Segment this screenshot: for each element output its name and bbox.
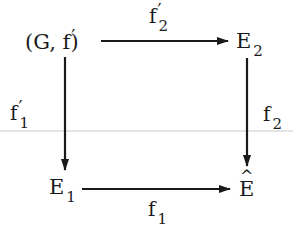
label-f-prime-1: f′1: [10, 103, 29, 123]
label-f-prime-1-base: f: [10, 101, 17, 125]
prime-mark: ′: [71, 26, 75, 47]
node-e2-sub: 2: [253, 42, 263, 60]
label-f-prime-2-sub: 2: [159, 17, 169, 35]
label-f-prime-2-base: f: [149, 4, 156, 28]
label-f-2-base: f: [263, 102, 270, 126]
node-e1-sub: 1: [66, 188, 76, 206]
label-f-prime-1-sub: 1: [20, 114, 30, 132]
label-f-2-sub: 2: [272, 115, 282, 133]
node-g-f-text: (G, f: [25, 30, 70, 54]
label-f-prime-2: f′2: [149, 6, 168, 26]
commutative-diagram: (G, f′) E2 E1 ^ E f′2 f′1 f2 f1: [0, 0, 293, 231]
node-g-f-prime: (G, f′): [25, 32, 79, 53]
node-e2: E2: [236, 31, 263, 52]
node-e2-base: E: [236, 29, 251, 53]
node-e-hat: ^ E: [239, 179, 254, 200]
hat-accent: ^: [240, 169, 253, 185]
label-f-1: f1: [148, 199, 167, 219]
label-f-1-base: f: [148, 197, 155, 221]
label-f-1-sub: 1: [157, 210, 167, 228]
e-hat-wrap: ^ E: [239, 179, 254, 200]
node-e1: E1: [49, 177, 76, 198]
label-f-2: f2: [263, 104, 282, 124]
node-e1-base: E: [49, 175, 64, 199]
